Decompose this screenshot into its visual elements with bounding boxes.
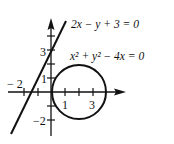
y-tick-label-neg2: −2	[33, 114, 46, 128]
line-equation-label: 2x − y + 3 = 0	[71, 18, 139, 31]
x-tick-label-1: 1	[62, 98, 68, 112]
x-tick-label-3: 3	[89, 98, 95, 112]
diagram-canvas: − 2 1 3 3 1 −2 2x − y + 3 = 0 x² + y² − …	[0, 0, 174, 144]
y-tick-label-3: 3	[40, 45, 46, 59]
x-tick-label-neg2: − 2	[7, 77, 23, 91]
circle-equation-label: x² + y² − 4x = 0	[69, 50, 144, 63]
y-tick-label-1: 1	[41, 72, 47, 86]
y-axis	[47, 18, 55, 136]
x-axis	[8, 88, 126, 96]
